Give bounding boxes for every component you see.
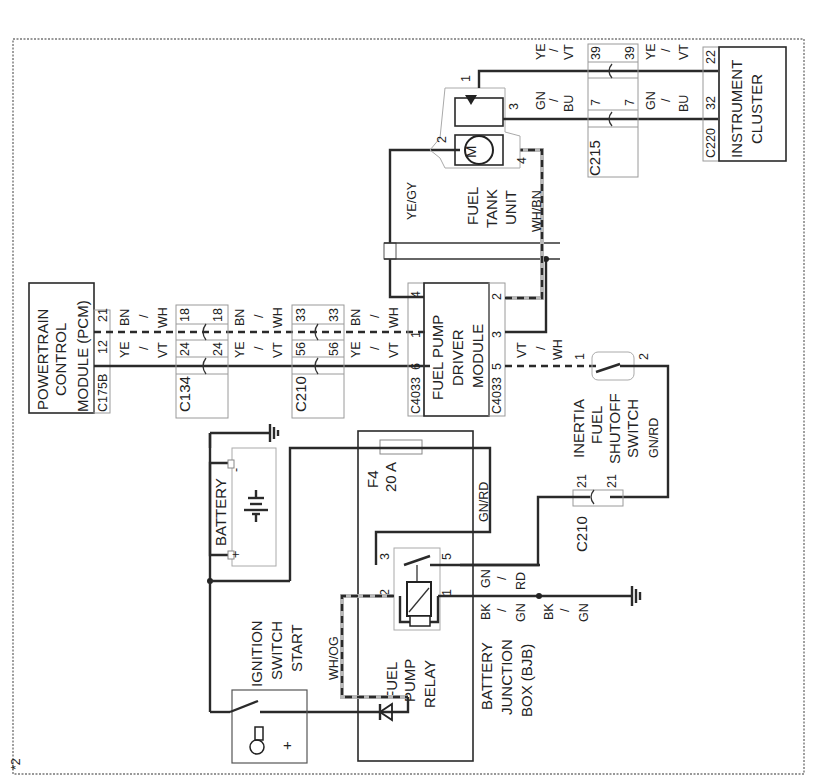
svg-text:32: 32 [704,96,718,110]
svg-text:C134: C134 [176,376,193,412]
svg-text:24: 24 [211,342,225,356]
svg-text:22: 22 [704,50,718,64]
wire-ye-gy [390,150,460,297]
svg-text:POWERTRAIN: POWERTRAIN [34,309,51,410]
wire-label-vt-wh: VT / WH [515,339,565,360]
svg-text:/: / [495,576,509,580]
svg-text:FUEL: FUEL [464,187,481,225]
wire-label-wh-og: WH/OG [327,636,341,680]
svg-text:-: - [229,468,243,472]
svg-text:YE: YE [118,341,132,358]
svg-text:/: / [368,346,382,350]
svg-text:18: 18 [211,308,225,322]
pcm-module: POWERTRAIN CONTROL MODULE (PCM) C175B 12… [29,283,110,413]
svg-text:5: 5 [490,363,504,370]
svg-text:FUEL PUMP: FUEL PUMP [429,315,446,400]
svg-text:21: 21 [96,308,110,322]
svg-text:C220: C220 [704,128,718,158]
svg-text:INERTIA: INERTIA [570,399,587,458]
svg-text:/: / [252,314,266,318]
svg-text:SHUTOFF: SHUTOFF [606,393,623,464]
svg-text:18: 18 [178,308,192,322]
wire-label-ye-gy: YE/GY [405,181,419,220]
svg-text:1: 1 [573,353,587,360]
connector-c215: 39 39 7 7 C215 [586,44,638,177]
key-icon [250,727,264,754]
wire-ye-vt-sender [479,71,718,88]
fuel-tank-unit: M 1 2 3 4 FUEL TANK UNIT [430,75,529,228]
svg-text:BU: BU [677,95,691,112]
svg-text:WH: WH [271,307,285,328]
svg-text:33: 33 [327,308,341,322]
svg-text:FUEL: FUEL [588,406,605,444]
ground-symbol-relay [632,586,640,606]
svg-text:BN: BN [349,309,363,326]
svg-text:BATTERY: BATTERY [212,478,229,546]
svg-text:24: 24 [178,342,192,356]
page-marker: *2 [9,758,23,770]
svg-text:VT: VT [387,342,401,358]
svg-text:+: + [229,551,243,558]
svg-text:GN: GN [514,603,528,622]
svg-text:2: 2 [435,136,449,143]
svg-text:2: 2 [637,353,651,360]
wire-fpdm-pin3 [505,259,546,332]
svg-text:VT: VT [562,44,576,60]
connector-c210-bottom: 21 21 C210 [573,474,623,552]
svg-text:21: 21 [575,474,589,488]
svg-text:33: 33 [294,308,308,322]
ignition-switch: IGNITION SWITCH START + [210,620,307,763]
svg-text:YE: YE [233,341,247,358]
svg-text:21: 21 [605,474,619,488]
svg-text:39: 39 [589,46,603,60]
svg-text:GN: GN [534,91,548,110]
svg-text:C210: C210 [292,376,309,412]
svg-text:YE: YE [644,43,658,60]
svg-text:GN: GN [479,569,493,588]
wire-label-sender: YE / VT GN / BU [534,43,576,112]
svg-text:CLUSTER: CLUSTER [748,74,765,144]
svg-text:BN: BN [118,309,132,326]
svg-text:UNIT: UNIT [502,190,519,225]
svg-text:WH: WH [551,339,565,360]
svg-text:1: 1 [409,331,423,338]
svg-text:DRIVER: DRIVER [449,329,466,386]
svg-text:YE: YE [349,341,363,358]
svg-text:WH: WH [156,307,170,328]
svg-text:/: / [252,346,266,350]
svg-text:C4033: C4033 [409,377,423,414]
svg-text:2: 2 [490,293,504,300]
svg-text:GN: GN [577,603,591,622]
svg-text:VT: VT [677,44,691,60]
instrument-cluster: 22 32 C220 INSTRUMENT CLUSTER [703,47,786,161]
svg-text:/: / [558,608,572,612]
svg-text:/: / [547,48,561,52]
svg-text:SWITCH: SWITCH [624,399,641,458]
svg-text:7: 7 [623,99,637,106]
svg-text:3: 3 [507,103,521,110]
svg-text:BK: BK [542,603,556,620]
svg-text:56: 56 [294,342,308,356]
svg-text:56: 56 [327,342,341,356]
motor-symbol: M [462,146,479,159]
svg-text:MODULE (PCM): MODULE (PCM) [74,300,91,412]
inertia-fuel-shutoff-switch: 1 2 INERTIA FUEL SHUTOFF SWITCH [570,352,651,464]
svg-text:6: 6 [409,363,423,370]
pcm-connector: C175B [96,374,110,412]
svg-text:GN/RD: GN/RD [647,418,661,458]
svg-text:VT: VT [515,342,529,358]
svg-text:RD: RD [514,572,528,590]
svg-text:INSTRUMENT: INSTRUMENT [728,60,745,158]
svg-text:BK: BK [479,603,493,620]
svg-text:JUNCTION: JUNCTION [498,639,515,715]
svg-text:SWITCH: SWITCH [268,621,285,680]
svg-text:F4: F4 [364,470,381,488]
fuel-pump-driver-module: C4033 6 1 4 FUEL PUMP DRIVER MODULE C403… [408,283,505,416]
svg-text:/: / [137,314,151,318]
svg-text:+: + [278,741,295,750]
svg-text:C215: C215 [586,140,603,176]
svg-text:MODULE: MODULE [469,324,486,388]
svg-text:GN: GN [644,91,658,110]
svg-text:C4033: C4033 [490,377,504,414]
svg-text:FUEL: FUEL [383,662,400,700]
